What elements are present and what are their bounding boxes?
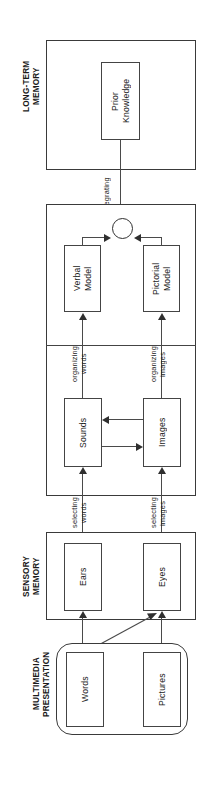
node-label-words: Words	[66, 652, 104, 727]
node-label-pictures: Pictures	[143, 652, 181, 727]
multimedia-learning-diagram: LONG-TERM MEMORY Prior Knowledge integra…	[0, 0, 208, 787]
